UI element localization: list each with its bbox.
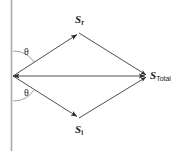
label-vector-s-r: Sr <box>75 14 84 26</box>
vector-s-i <box>13 76 77 117</box>
lower-closing-side <box>79 77 146 118</box>
vector-s-r <box>13 35 77 77</box>
label-theta-lower: θ <box>24 88 29 98</box>
label-s-i-subscript: i <box>81 129 83 136</box>
label-s-r-subscript: r <box>81 19 84 26</box>
upper-closing-side <box>79 33 146 75</box>
label-vector-s-total: STotal <box>150 70 171 82</box>
label-theta-upper: θ <box>24 47 29 57</box>
vector-diagram-figure: Sr Si STotal θ θ <box>0 0 182 151</box>
label-s-total-subscript: Total <box>156 75 171 82</box>
label-vector-s-i: Si <box>75 124 83 136</box>
